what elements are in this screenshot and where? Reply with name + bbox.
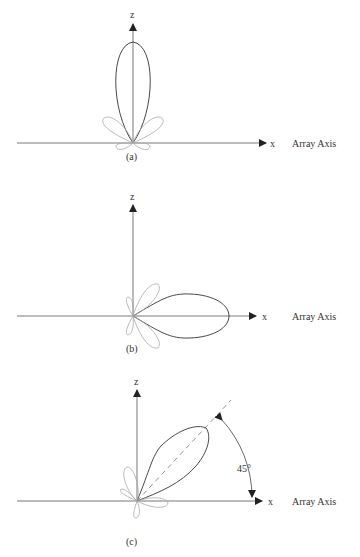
panel-c: 45° z x Array Axis (c) [17,376,336,548]
main-lobe [137,427,209,501]
beam-direction-line [137,400,231,501]
x-label: x [268,496,273,507]
side-lobe [137,498,168,508]
side-lobe [133,284,159,316]
side-lobe [103,117,133,143]
array-axis-label: Array Axis [292,138,336,149]
back-lobe [116,143,133,150]
back-lobe [126,297,133,316]
caption-a: (a) [126,151,137,163]
array-pattern-diagram: z x Array Axis (a) z x Array Axis (b) 45… [0,0,360,557]
panel-b: z x Array Axis (b) [17,191,336,355]
back-lobe [133,143,150,150]
z-label: z [130,9,135,20]
caption-b: (b) [126,343,138,355]
angle-arc [222,420,252,497]
side-lobe [133,117,163,143]
x-label: x [270,138,275,149]
angle-label: 45° [237,463,251,474]
caption-c: (c) [126,536,137,548]
panel-a: z x Array Axis (a) [17,9,336,163]
array-axis-label: Array Axis [292,311,336,322]
z-label: z [134,376,139,387]
back-lobe [134,501,140,518]
array-axis-label: Array Axis [292,496,336,507]
x-label: x [262,311,267,322]
z-label: z [130,191,135,202]
back-lobe [126,316,133,335]
